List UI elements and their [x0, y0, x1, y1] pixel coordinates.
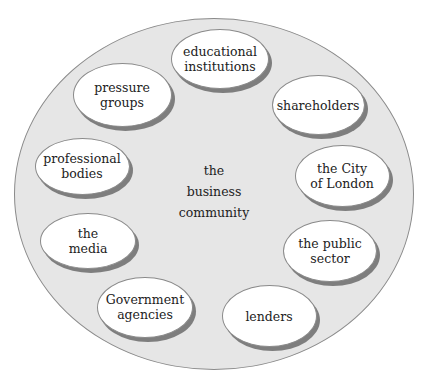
node-shareholders[interactable]: shareholders — [272, 75, 365, 135]
node-label: the media — [69, 226, 108, 256]
node-label: lenders — [245, 309, 292, 324]
node-city-of-london[interactable]: the City of London — [295, 145, 390, 207]
node-educational-institutions[interactable]: educational institutions — [171, 29, 269, 89]
node-government-agencies[interactable]: Government agencies — [97, 277, 193, 338]
node-label: educational institutions — [183, 44, 257, 74]
node-label: the City of London — [310, 161, 374, 191]
stakeholder-diagram: the business community educational insti… — [0, 0, 426, 385]
node-label: Government agencies — [106, 292, 184, 322]
node-label: shareholders — [277, 98, 360, 113]
center-label-text: the business community — [154, 160, 274, 223]
node-label: pressure groups — [94, 80, 150, 110]
node-label: professional bodies — [43, 151, 120, 181]
node-label: the public sector — [298, 236, 362, 266]
node-professional-bodies[interactable]: professional bodies — [35, 138, 130, 195]
node-pressure-groups[interactable]: pressure groups — [73, 63, 172, 127]
node-the-media[interactable]: the media — [40, 213, 136, 269]
center-label: the business community — [154, 160, 274, 223]
node-lenders[interactable]: lenders — [222, 285, 317, 347]
node-public-sector[interactable]: the public sector — [283, 220, 377, 282]
